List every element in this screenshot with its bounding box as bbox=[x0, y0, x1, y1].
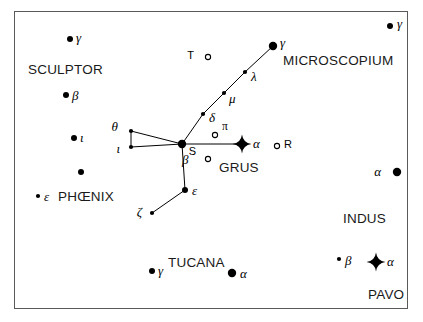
constellation-line bbox=[245, 46, 273, 72]
star-marker-grus-mu bbox=[222, 91, 226, 95]
star-label-grus-zeta: ζ bbox=[137, 205, 142, 218]
variable-star-label-var-T: T bbox=[187, 50, 194, 61]
variable-star-label-var-S: S bbox=[189, 146, 196, 157]
star-marker-pavo-beta bbox=[337, 257, 341, 261]
star-label-sculptor-iota: ι bbox=[80, 131, 84, 144]
star-label-pavo-alpha: α bbox=[387, 255, 394, 268]
star-label-sculptor-gamma: γ bbox=[76, 31, 81, 44]
constellation-line bbox=[131, 131, 182, 144]
star-label-tucana-alpha: α bbox=[240, 267, 247, 280]
constellation-label-microscopium: MICROSCOPIUM bbox=[283, 54, 393, 68]
star-label-grus-lambda: λ bbox=[251, 70, 257, 83]
star-label-phoenix-epsilon: ε bbox=[44, 190, 49, 203]
star-label-grus-iota: ι bbox=[116, 142, 120, 155]
star-label-topright-gamma: γ bbox=[397, 17, 402, 30]
star-marker-grus-zeta bbox=[150, 211, 154, 215]
constellation-label-tucana: TUCANA bbox=[168, 256, 225, 270]
star-label-tucana-gamma: γ bbox=[158, 264, 163, 277]
star-marker-grus-lambda bbox=[243, 70, 247, 74]
variable-star-marker-var-R bbox=[274, 143, 279, 148]
star-label-grus-delta: δ bbox=[209, 111, 215, 124]
star-marker-grus-alpha bbox=[233, 135, 252, 154]
star-marker-sculptor-beta bbox=[63, 92, 69, 98]
variable-star-marker-var-T bbox=[205, 54, 210, 59]
variable-star-label-var-R: R bbox=[284, 139, 292, 150]
star-marker-topright-gamma bbox=[387, 23, 393, 29]
star-marker-phoenix-unnamed bbox=[78, 169, 84, 175]
star-marker-grus-theta bbox=[129, 129, 133, 133]
star-chart-figure: γβιθιβδμλγαεζεγααβαγTπSRSCULPTORMICROSCO… bbox=[0, 0, 423, 322]
constellation-label-pavo: PAVO bbox=[368, 288, 404, 302]
constellation-label-grus: GRUS bbox=[219, 161, 259, 175]
star-label-grus-epsilon: ε bbox=[192, 184, 197, 197]
star-label-microscopium-gamma: γ bbox=[280, 36, 285, 49]
constellation-line bbox=[152, 190, 185, 213]
star-marker-pavo-alpha bbox=[367, 253, 386, 272]
star-marker-indus-alpha bbox=[393, 168, 401, 176]
constellation-label-indus: INDUS bbox=[343, 212, 386, 226]
constellation-line bbox=[131, 144, 182, 147]
star-label-sculptor-beta: β bbox=[72, 89, 78, 102]
constellation-line bbox=[182, 114, 203, 144]
constellation-line bbox=[182, 144, 185, 190]
constellation-label-sculptor: SCULPTOR bbox=[28, 63, 103, 77]
star-marker-microscopium-gamma bbox=[269, 42, 277, 50]
star-marker-sculptor-iota bbox=[71, 135, 77, 141]
star-marker-phoenix-epsilon bbox=[36, 194, 40, 198]
star-marker-grus-beta bbox=[178, 140, 186, 148]
star-marker-tucana-gamma bbox=[149, 268, 155, 274]
constellation-line bbox=[224, 72, 245, 93]
star-label-grus-beta: β bbox=[182, 153, 188, 166]
star-marker-grus-delta bbox=[201, 112, 205, 116]
constellation-label-ph-nix: PHŒNIX bbox=[58, 190, 114, 204]
variable-star-marker-var-pi bbox=[212, 132, 217, 137]
star-marker-tucana-alpha bbox=[228, 269, 236, 277]
star-label-grus-mu: μ bbox=[229, 92, 236, 105]
variable-star-marker-var-S bbox=[205, 156, 210, 161]
star-label-pavo-beta: β bbox=[345, 254, 351, 267]
star-marker-grus-iota bbox=[129, 145, 133, 149]
variable-star-label-var-pi: π bbox=[222, 121, 228, 133]
star-label-grus-alpha: α bbox=[253, 137, 260, 150]
star-marker-grus-epsilon bbox=[182, 187, 188, 193]
star-label-indus-alpha: α bbox=[374, 165, 381, 178]
star-label-grus-theta: θ bbox=[112, 120, 118, 133]
star-marker-sculptor-gamma bbox=[67, 36, 73, 42]
star-field-canvas bbox=[0, 0, 423, 322]
